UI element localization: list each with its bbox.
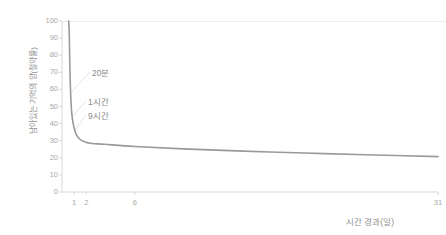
forgetting-curve-line <box>69 21 438 157</box>
annotation-9hours: 9시간 <box>88 109 109 121</box>
axis-lines <box>62 21 438 192</box>
annotation-1hour: 1시간 <box>88 95 109 107</box>
annotation-20min: 20분 <box>92 66 109 78</box>
plot-canvas <box>0 0 446 235</box>
forgetting-curve-figure: 남아있는 기억의 양(절약률) 시간 경과(일) 100908070605040… <box>0 0 446 235</box>
